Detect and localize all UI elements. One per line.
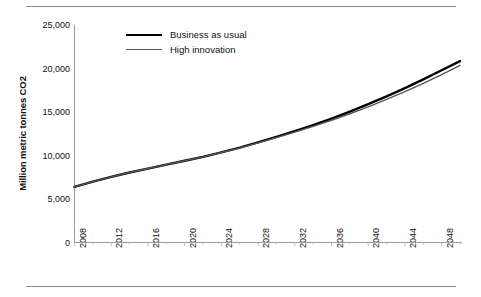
chart-legend: Business as usualHigh innovation [126,27,296,57]
legend-item: Business as usual [126,27,296,42]
series-line [75,61,461,187]
legend-item-label: Business as usual [170,29,247,40]
x-axis-ticks [75,243,461,247]
legend-line-swatch-icon [126,49,162,50]
legend-line-swatch-icon [126,34,162,36]
series-lines [75,61,461,187]
legend-item-label: High innovation [170,44,236,55]
series-line [75,65,461,186]
chart-figure: Million metric tonnes CO2 25,00020,00015… [0,0,481,297]
legend-item: High innovation [126,42,296,57]
